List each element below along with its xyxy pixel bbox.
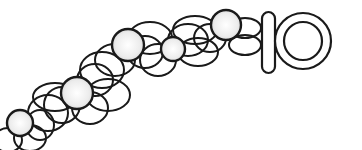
- pearl-bead: [61, 77, 93, 109]
- pearl-necklace-drawing: [0, 0, 362, 150]
- pearl-bead: [112, 29, 144, 61]
- toggle-ring-inner: [284, 22, 322, 60]
- pearl-bead: [7, 110, 33, 136]
- pearl-bead: [161, 37, 185, 61]
- pearl-bead: [211, 10, 241, 40]
- toggle-bar: [262, 12, 275, 73]
- necklace-illustration: [0, 0, 362, 150]
- toggle-clasp: [262, 12, 331, 73]
